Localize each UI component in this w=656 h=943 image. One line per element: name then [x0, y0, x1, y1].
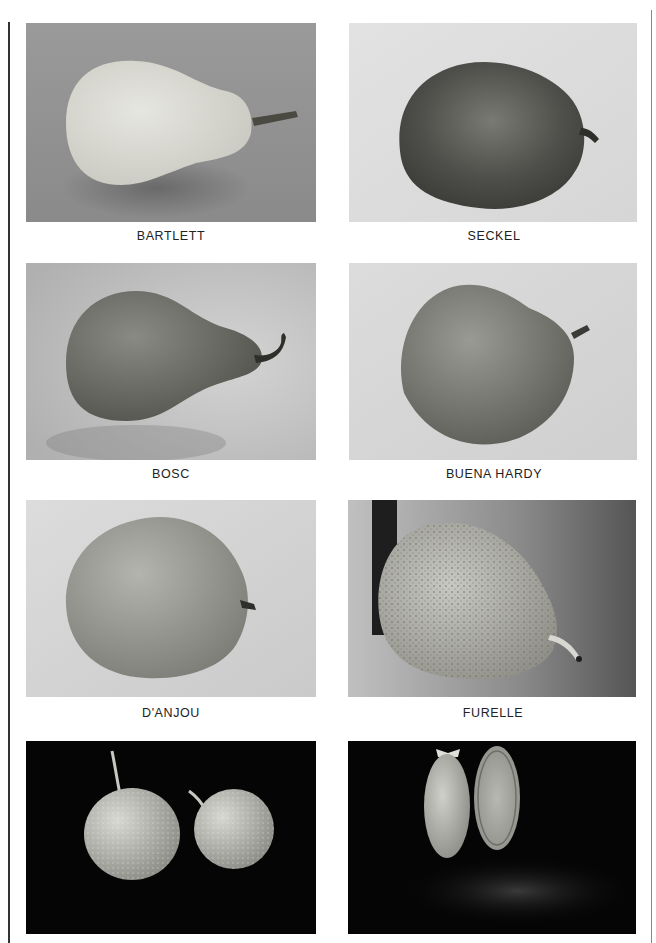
photo-danjou: [26, 500, 316, 697]
caption-bosc: BOSC: [26, 467, 316, 481]
photo-furelle: [348, 500, 636, 697]
photo-asian-pears: [26, 741, 316, 934]
caption-buena-hardy: BUENA HARDY: [349, 467, 639, 481]
photo-buena-hardy: [349, 263, 637, 460]
photo-bosc: [26, 263, 316, 460]
photo-seckel: [349, 23, 637, 222]
photo-cut-pear: [348, 741, 636, 934]
caption-danjou: D'ANJOU: [26, 706, 316, 720]
photo-bartlett: [26, 23, 316, 222]
caption-seckel: SECKEL: [349, 229, 639, 243]
caption-bartlett: BARTLETT: [26, 229, 316, 243]
page-margin-rule-left: [8, 22, 10, 943]
caption-furelle: FURELLE: [348, 706, 638, 720]
page-margin-rule-right: [651, 10, 652, 943]
